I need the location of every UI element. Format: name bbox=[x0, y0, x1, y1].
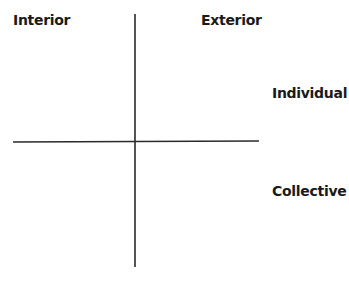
label-individual: Individual bbox=[272, 85, 347, 101]
label-collective: Collective bbox=[272, 183, 346, 199]
label-exterior: Exterior bbox=[201, 12, 262, 28]
axes-lines bbox=[0, 0, 349, 288]
label-interior: Interior bbox=[13, 12, 70, 28]
horizontal-axis-line bbox=[13, 141, 259, 142]
